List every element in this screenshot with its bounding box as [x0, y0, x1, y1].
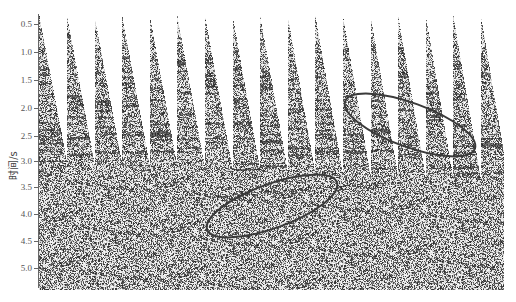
annotation-overlay	[0, 0, 516, 302]
upper-ellipse-annotation	[338, 81, 483, 170]
lower-ellipse-annotation	[200, 162, 345, 251]
seismic-figure: 0.5 1.0 1.5 2.0 2.5 3.0 3.5 4.0 4.5 5.0 …	[0, 0, 516, 302]
